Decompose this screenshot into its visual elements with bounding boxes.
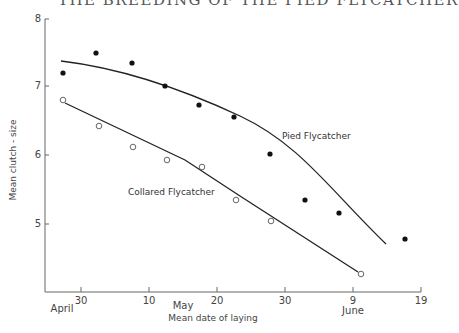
x-tick-label: 30 xyxy=(75,295,88,306)
collared-series-label: Collared Flycatcher xyxy=(128,187,215,197)
y-tick-label: 5 xyxy=(35,218,41,229)
fit-lines xyxy=(61,61,386,272)
x-tick-label: 10 xyxy=(143,295,156,306)
y-tick-label: 8 xyxy=(35,13,41,24)
collared-data-point xyxy=(233,197,239,203)
pied-data-point xyxy=(60,70,65,75)
pied-data-point xyxy=(231,114,236,119)
pied-data-point xyxy=(129,60,134,65)
pied-data-point xyxy=(196,102,201,107)
collared-data-point xyxy=(268,218,274,224)
collared-data-point xyxy=(96,123,102,129)
x-tick-label: 19 xyxy=(415,295,428,306)
x-tick-label: 20 xyxy=(211,295,224,306)
month-label-may: May xyxy=(173,300,194,311)
month-label-june: June xyxy=(341,305,364,316)
collared-data-point xyxy=(164,157,170,163)
data-points xyxy=(60,50,407,276)
y-tick-label: 6 xyxy=(35,149,41,160)
pied-data-point xyxy=(336,210,341,215)
x-axis-title: Mean date of laying xyxy=(168,313,257,323)
pied-data-point xyxy=(267,151,272,156)
labels: Pied FlycatcherCollared Flycatcher xyxy=(128,131,351,197)
pied-data-point xyxy=(162,83,167,88)
collared-data-point xyxy=(199,164,205,170)
collared-data-point xyxy=(130,144,136,150)
pied-data-point xyxy=(302,197,307,202)
month-label-april: April xyxy=(51,303,74,314)
collared-data-point xyxy=(60,97,66,103)
pied-data-point xyxy=(93,50,98,55)
pied-fit-curve xyxy=(61,61,386,244)
pied-series-label: Pied Flycatcher xyxy=(282,131,351,141)
pied-data-point xyxy=(402,236,407,241)
x-tick-label: 30 xyxy=(279,295,292,306)
axes: 567830102030919AprilMayJuneMean date of … xyxy=(8,13,427,323)
y-tick-label: 7 xyxy=(35,80,41,91)
y-axis-title: Mean clutch - size xyxy=(8,119,18,201)
collared-data-point xyxy=(358,271,364,277)
